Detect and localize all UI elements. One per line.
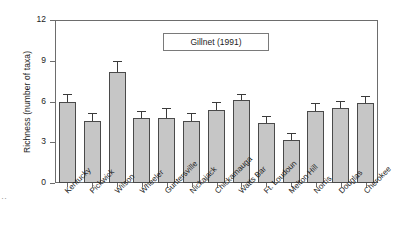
y-axis-label: Richness (number of taxa) <box>22 17 32 187</box>
error-bar-line <box>117 62 118 72</box>
legend: Gillnet (1991) <box>163 33 269 51</box>
error-bar-line <box>315 104 316 111</box>
error-bar-cap <box>336 101 345 102</box>
bar-group <box>332 20 349 183</box>
y-tick-label: 9 <box>41 55 46 65</box>
y-tick-label: 6 <box>41 96 46 106</box>
bar <box>133 118 150 183</box>
bar-group <box>307 20 324 183</box>
error-bar-cap <box>212 102 221 103</box>
error-bar-line <box>291 134 292 139</box>
error-bar-cap <box>262 116 271 117</box>
error-bar-cap <box>361 96 370 97</box>
error-bar-line <box>191 114 192 121</box>
scan-artifact: ·· <box>1 196 5 206</box>
legend-label: Gillnet (1991) <box>190 37 241 47</box>
bar <box>332 108 349 183</box>
bar-group <box>59 20 76 183</box>
y-tick-label: 12 <box>37 14 46 24</box>
error-bar-cap <box>311 103 320 104</box>
error-bar-line <box>266 117 267 123</box>
error-bar-line <box>67 95 68 102</box>
bar <box>109 72 126 183</box>
y-tick-label: 3 <box>41 136 46 146</box>
bar-group <box>84 20 101 183</box>
error-bar-cap <box>113 61 122 62</box>
bar-group <box>357 20 374 183</box>
error-bar-line <box>92 114 93 120</box>
error-bar-line <box>365 97 366 103</box>
error-bar-cap <box>187 113 196 114</box>
error-bar-cap <box>88 113 97 114</box>
error-bar-line <box>340 102 341 108</box>
bar-group <box>109 20 126 183</box>
error-bar-line <box>141 112 142 118</box>
y-tick-mark <box>50 183 55 184</box>
error-bar-line <box>241 95 242 100</box>
bar-group <box>133 20 150 183</box>
bar <box>59 102 76 183</box>
error-bar-cap <box>63 94 72 95</box>
error-bar-cap <box>162 108 171 109</box>
chart-figure: Richness (number of taxa) 036912 Kentuck… <box>0 0 401 250</box>
error-bar-cap <box>287 133 296 134</box>
error-bar-line <box>216 103 217 110</box>
error-bar-cap <box>137 111 146 112</box>
error-bar-cap <box>237 94 246 95</box>
error-bar-line <box>166 109 167 118</box>
y-tick-label: 0 <box>41 177 46 187</box>
